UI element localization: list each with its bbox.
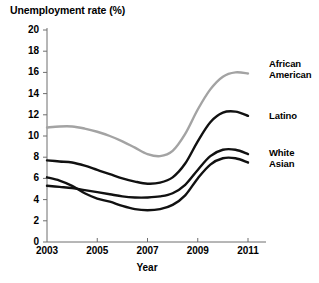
- y-axis-tick-label: 2: [17, 216, 39, 226]
- unemployment-rate-line-chart: Unemployment rate (%) 02468101214161820 …: [0, 0, 319, 283]
- x-axis-tick-label: 2007: [128, 246, 168, 256]
- series-line-white: [47, 149, 248, 198]
- series-label-line: White: [269, 148, 294, 159]
- y-axis-tick-label: 18: [17, 46, 39, 56]
- y-axis-tick-label: 10: [17, 131, 39, 141]
- series-label-latino: Latino: [269, 111, 297, 122]
- series-label-white: White: [269, 148, 294, 159]
- series-label-asian: Asian: [269, 159, 294, 170]
- series-group: [47, 72, 248, 210]
- x-axis-title: Year: [107, 262, 187, 273]
- series-label-african-american: AfricanAmerican: [269, 59, 312, 80]
- y-axis-tick-label: 16: [17, 67, 39, 77]
- y-axis-tick-label: 12: [17, 110, 39, 120]
- plot-area: [0, 0, 319, 283]
- x-axis-tick-label: 2011: [228, 246, 268, 256]
- series-label-line: American: [269, 70, 312, 81]
- y-axis-tick-label: 20: [17, 25, 39, 35]
- x-axis-tick-label: 2003: [27, 246, 67, 256]
- series-line-latino: [47, 111, 248, 184]
- y-axis-tick-label: 4: [17, 195, 39, 205]
- series-label-line: Latino: [269, 111, 297, 122]
- series-label-line: Asian: [269, 159, 294, 170]
- x-axis-tick-label: 2009: [178, 246, 218, 256]
- y-axis-tick-label: 6: [17, 173, 39, 183]
- y-axis-tick-label: 14: [17, 89, 39, 99]
- x-axis-tick-label: 2005: [77, 246, 117, 256]
- y-axis-tick-label: 8: [17, 152, 39, 162]
